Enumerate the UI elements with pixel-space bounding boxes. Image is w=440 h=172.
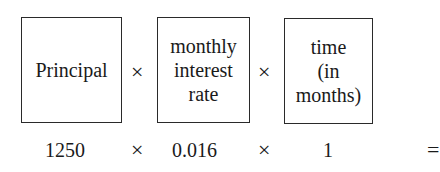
box-label: time: [311, 35, 347, 59]
box-label: (in months): [285, 59, 372, 107]
multiply-sign: ×: [131, 138, 143, 162]
equals-sign: =: [427, 138, 439, 162]
principal-box: Principal: [21, 17, 122, 123]
box-label: interest: [174, 58, 233, 82]
principal-value: 1250: [45, 138, 85, 162]
time-box: time (in months): [284, 18, 373, 124]
box-label: Principal: [35, 58, 107, 82]
multiply-sign: ×: [258, 138, 270, 162]
box-label: monthly: [170, 34, 237, 58]
multiply-sign: ×: [258, 60, 270, 84]
time-value: 1: [323, 138, 333, 162]
multiply-sign: ×: [131, 60, 143, 84]
box-label: rate: [189, 82, 219, 106]
rate-value: 0.016: [172, 138, 217, 162]
monthly-interest-rate-box: monthly interest rate: [157, 17, 250, 123]
